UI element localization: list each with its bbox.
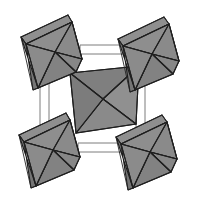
octahedral-framework-diagram: [0, 0, 197, 198]
figure-root: [0, 0, 197, 198]
figure-caption: [60, 186, 138, 193]
